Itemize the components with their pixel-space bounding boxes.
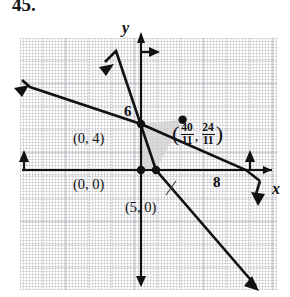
- y-axis-label: y: [122, 20, 129, 36]
- tick-label-8: 8: [213, 175, 221, 190]
- tick-label-6: 6: [124, 104, 132, 119]
- shallow-line-left-arrowhead: [14, 85, 29, 97]
- constraint-arrow-left-head: [19, 150, 29, 162]
- vertex-label-intersection: ( 40 11 , 24 11 ): [172, 122, 223, 146]
- fraction-x: 40 11: [180, 122, 194, 146]
- fraction-y: 24 11: [201, 122, 215, 146]
- y-axis-bottom-arrowhead: [136, 276, 146, 287]
- steep-line-upper-arrowhead: [99, 64, 114, 76]
- vertex-0-4-dot: [137, 120, 145, 128]
- x-axis-label: x: [272, 181, 280, 197]
- y-axis-arrowhead: [137, 32, 145, 43]
- vertex-label-0-4: (0, 4): [73, 131, 104, 146]
- fraction-x-numerator: 40: [180, 122, 194, 134]
- shallow-line-right-arrowhead: [251, 192, 265, 206]
- fraction-y-denominator: 11: [202, 134, 215, 147]
- graph-drawing: [0, 14, 290, 297]
- x-axis-arrowhead: [263, 166, 272, 174]
- steep-line-lower-arrowhead: [244, 276, 259, 291]
- steep-boundary-line: [105, 51, 256, 286]
- fraction-y-numerator: 24: [201, 122, 215, 134]
- constraint-arrow-top-head: [149, 47, 160, 57]
- figure-canvas: 45.: [0, 0, 290, 297]
- shallow-line-right-tail: [256, 181, 260, 194]
- close-paren: ): [216, 123, 223, 145]
- coordinate-plane: 6 8 (0, 4) (0, 0) (5, 0) ( 40 11 , 24 11…: [0, 14, 290, 297]
- fraction-x-denominator: 11: [181, 134, 194, 147]
- vertex-label-origin: (0, 0): [73, 177, 104, 192]
- open-paren: (: [172, 123, 179, 145]
- constraint-arrow-right-head: [245, 150, 255, 162]
- vertex-5-0-dot: [152, 166, 160, 174]
- vertex-label-5-0: (5, 0): [125, 200, 156, 215]
- vertex-origin-dot: [137, 166, 145, 174]
- coordinate-comma: ,: [195, 129, 199, 145]
